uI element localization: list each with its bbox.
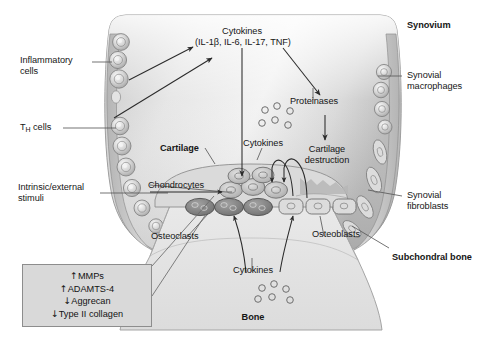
th-cell: [123, 179, 140, 196]
inflammatory-cell: [113, 34, 130, 51]
mediator-arrow-3: ↓: [51, 308, 59, 319]
inflammatory-cell: [110, 70, 128, 88]
synovial-macrophage: [374, 101, 389, 116]
mediator-arrow-0: ↑: [70, 270, 78, 281]
label-intrinsic-external-stimuli: Intrinsic/external stimuli: [18, 182, 114, 205]
th-cells-suffix: cells: [31, 122, 52, 132]
mediator-item-2: ↓Aggrecan: [23, 295, 151, 308]
label-cytokines-top-list: (IL-1β, IL-6, IL-17, TNF): [170, 37, 316, 48]
mediator-item-0: ↑MMPs: [23, 270, 151, 283]
osteoblast: [333, 199, 356, 214]
label-cartilage: Cartilage: [160, 143, 199, 154]
joint-pathophysiology-figure: Inflammatory cells TH cells Intrinsic/ex…: [0, 0, 501, 344]
chondrocyte: [265, 182, 288, 198]
th-cell: [134, 200, 150, 216]
th-cell: [111, 117, 129, 135]
label-osteoclasts: Osteoclasts: [151, 231, 198, 242]
mediator-item-1: ↑ADAMTS-4: [23, 283, 151, 296]
label-synovial-fibroblasts: Synovial fibroblasts: [407, 190, 493, 213]
synovial-macrophage: [376, 64, 391, 79]
osteoclast: [215, 198, 244, 215]
osteoblast: [306, 199, 330, 214]
mediator-arrow-1: ↑: [60, 283, 68, 294]
synovial-macrophage: [373, 82, 389, 98]
label-inflammatory-cells: Inflammatory cells: [20, 55, 104, 78]
label-cytokines-top: Cytokines: [186, 26, 298, 37]
mediator-name-2: Aggrecan: [71, 296, 110, 306]
inflammatory-cell: [109, 51, 126, 68]
chondrocyte: [228, 168, 250, 184]
label-synovial-macrophages: Synovial macrophages: [407, 70, 497, 93]
label-chondrocytes: Chondrocytes: [148, 180, 204, 191]
label-proteinases: Proteinases: [283, 96, 345, 107]
chondrocyte: [220, 182, 243, 198]
mediator-name-0: MMPs: [78, 271, 104, 281]
label-bone: Bone: [222, 312, 284, 323]
mediator-name-3: Type II collagen: [59, 309, 123, 319]
label-cartilage-destruction: Cartilage destruction: [296, 144, 358, 167]
th-cell: [117, 158, 135, 176]
osteoblast: [279, 199, 303, 214]
label-cytokines-bone: Cytokines: [222, 265, 284, 276]
mediator-item-3: ↓Type II collagen: [23, 308, 151, 321]
chondrocyte: [252, 167, 274, 183]
label-synovium: Synovium: [407, 20, 451, 31]
th-cell: [113, 137, 131, 155]
label-cytokines-mid: Cytokines: [232, 138, 294, 149]
mediator-summary-box: ↑MMPs ↑ADAMTS-4 ↓Aggrecan ↓Type II colla…: [22, 264, 152, 327]
mediator-name-1: ADAMTS-4: [68, 284, 114, 294]
osteoclast: [244, 198, 273, 215]
synovial-macrophage: [378, 120, 392, 134]
label-th-cells: TH cells: [20, 122, 51, 135]
osteoblast-group: [279, 199, 356, 214]
label-subchondral-bone: Subchondral bone: [392, 252, 472, 263]
label-osteoblasts: Osteoblasts: [312, 229, 360, 240]
